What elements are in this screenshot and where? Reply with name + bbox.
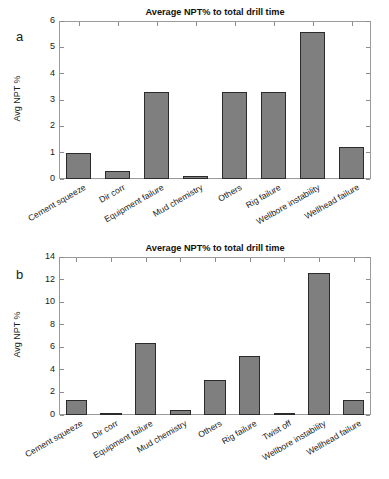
y-tick-mark <box>60 100 64 101</box>
bar <box>339 147 363 179</box>
chart-title-a: Average NPT% to total drill time <box>59 8 371 17</box>
x-tick-label: Dir corr <box>97 183 126 204</box>
bar <box>343 400 364 415</box>
y-tick-mark <box>366 179 370 180</box>
y-tick-label: 2 <box>23 387 55 396</box>
bar <box>204 380 225 415</box>
bar <box>239 356 260 415</box>
y-tick-label: 6 <box>23 342 55 351</box>
y-tick-mark <box>366 100 370 101</box>
bar <box>135 343 156 415</box>
y-tick-mark <box>60 369 64 370</box>
y-tick-mark <box>60 392 64 393</box>
y-tick-label: 12 <box>23 275 55 284</box>
x-tick-mark <box>146 258 147 262</box>
y-tick-mark <box>60 73 64 74</box>
y-tick-mark <box>366 73 370 74</box>
y-tick-label: 4 <box>23 69 55 78</box>
y-tick-mark <box>60 415 64 416</box>
bar <box>170 410 191 415</box>
bar <box>105 171 129 179</box>
bar <box>261 92 285 179</box>
y-tick-label: 4 <box>23 365 55 374</box>
x-tick-mark <box>79 22 80 26</box>
bar <box>66 400 87 415</box>
y-tick-mark <box>60 152 64 153</box>
x-tick-mark <box>235 22 236 26</box>
y-tick-label: 0 <box>23 410 55 419</box>
bar <box>300 32 324 179</box>
x-tick-label: Cement squeeze <box>24 419 85 459</box>
x-tick-mark <box>196 22 197 26</box>
y-tick-mark <box>366 415 370 416</box>
x-tick-mark <box>76 258 77 262</box>
y-tick-mark <box>366 279 370 280</box>
y-tick-label: 3 <box>23 95 55 104</box>
y-tick-mark <box>60 47 64 48</box>
y-tick-label: 10 <box>23 297 55 306</box>
y-tick-mark <box>60 21 64 22</box>
y-axis-label-b: Avg NPT % <box>13 290 22 380</box>
x-tick-mark <box>284 258 285 262</box>
y-axis-label-a: Avg NPT % <box>13 54 22 144</box>
bar <box>144 92 168 179</box>
x-tick-label: Rig failure <box>220 419 258 446</box>
y-tick-mark <box>366 21 370 22</box>
chart-panel-b: b Average NPT% to total drill time Avg N… <box>0 240 389 479</box>
y-tick-mark <box>366 47 370 48</box>
bar <box>100 413 121 415</box>
y-tick-mark <box>366 257 370 258</box>
y-tick-mark <box>366 126 370 127</box>
y-tick-mark <box>366 347 370 348</box>
x-tick-mark <box>250 258 251 262</box>
x-tick-mark <box>319 258 320 262</box>
y-tick-mark <box>60 257 64 258</box>
y-tick-label: 8 <box>23 320 55 329</box>
bar <box>308 273 329 415</box>
y-tick-label: 14 <box>23 252 55 261</box>
x-tick-mark <box>111 258 112 262</box>
y-tick-mark <box>366 324 370 325</box>
x-tick-mark <box>313 22 314 26</box>
x-tick-mark <box>157 22 158 26</box>
bar <box>222 92 246 179</box>
chart-title-b: Average NPT% to total drill time <box>59 244 371 253</box>
x-tick-mark <box>118 22 119 26</box>
x-tick-mark <box>354 258 355 262</box>
y-tick-label: 0 <box>23 174 55 183</box>
y-tick-mark <box>60 302 64 303</box>
y-tick-label: 6 <box>23 16 55 25</box>
y-tick-mark <box>60 279 64 280</box>
y-tick-mark <box>60 179 64 180</box>
y-tick-mark <box>60 347 64 348</box>
y-tick-mark <box>366 369 370 370</box>
y-tick-mark <box>366 392 370 393</box>
x-tick-label: Others <box>216 183 243 203</box>
bar <box>274 413 295 415</box>
y-tick-label: 1 <box>23 148 55 157</box>
y-tick-mark <box>366 302 370 303</box>
y-tick-label: 2 <box>23 121 55 130</box>
bar <box>183 176 207 179</box>
x-tick-mark <box>352 22 353 26</box>
x-tick-mark <box>274 22 275 26</box>
y-tick-mark <box>60 324 64 325</box>
y-tick-mark <box>60 126 64 127</box>
panel-letter-a: a <box>16 30 23 43</box>
x-tick-label: Cement squeeze <box>26 183 87 223</box>
bar <box>66 153 90 179</box>
y-tick-mark <box>366 152 370 153</box>
x-tick-mark <box>180 258 181 262</box>
y-tick-label: 5 <box>23 42 55 51</box>
x-tick-mark <box>215 258 216 262</box>
chart-panel-a: a Average NPT% to total drill time Avg N… <box>0 0 389 240</box>
